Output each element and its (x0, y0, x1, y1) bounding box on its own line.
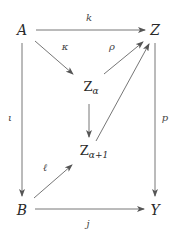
label-k: k (86, 13, 92, 23)
label-ell: ℓ (43, 163, 47, 173)
label-iota: ι (8, 113, 12, 123)
arrow-ell (34, 165, 72, 198)
node-z-alpha-base: Z (83, 79, 92, 94)
node-a: A (17, 23, 27, 37)
node-b: B (17, 203, 27, 217)
node-z-alpha-sub: α (92, 86, 98, 96)
node-z-alpha: Zα (83, 80, 98, 98)
node-y: Y (150, 203, 159, 217)
node-z-alpha1-base: Z (80, 143, 89, 158)
label-p: p (162, 113, 168, 123)
label-kappa: κ (62, 42, 69, 52)
label-j: j (86, 219, 89, 229)
node-z: Z (150, 23, 160, 37)
node-z-alpha1-sub: α+1 (89, 150, 108, 160)
label-rho: ρ (109, 42, 115, 52)
node-z-alpha-plus-1: Zα+1 (80, 144, 108, 162)
